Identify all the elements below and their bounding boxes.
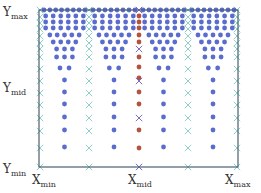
blue-sample-dot [112,55,117,60]
blue-sample-dot [73,20,78,25]
blue-sample-dot [206,66,211,71]
blue-sample-dot [51,40,56,45]
blue-sample-dot [161,47,166,52]
blue-sample-dot [92,26,97,31]
blue-sample-dot [211,128,216,133]
blue-sample-dot [161,115,166,120]
teal-cross-marker [37,78,43,84]
blue-sample-dot [115,40,120,45]
blue-sample-dot [112,33,117,38]
red-sample-dot [137,102,142,107]
blue-sample-dot [54,47,59,52]
blue-sample-dot [202,47,207,52]
blue-sample-dot [222,14,227,19]
red-sample-dot [137,55,142,60]
teal-cross-marker [86,66,92,72]
teal-cross-marker [185,26,191,32]
blue-sample-dot [165,26,170,31]
blue-sample-dot [153,55,158,60]
teal-cross-marker [86,46,92,52]
blue-sample-dot [103,47,108,52]
blue-sample-dot [191,20,196,25]
teal-cross-marker [234,115,240,121]
blue-sample-dot [108,20,113,25]
y-mid-label: Ymid [3,82,26,97]
blue-sample-dot [92,14,97,19]
teal-cross-marker [86,128,92,134]
blue-sample-dot [66,40,71,45]
blue-sample-dot [62,90,67,95]
blue-sample-dot [77,33,82,38]
x-max-label: Xmax [225,174,250,189]
blue-sample-dot [150,20,155,25]
blue-sample-dot [73,26,78,31]
blue-sample-dot [230,14,235,19]
teal-cross-marker [185,102,191,108]
blue-sample-dot [215,66,220,71]
blue-sample-dot [103,55,108,60]
blue-sample-dot [169,47,174,52]
teal-cross-marker [37,40,43,46]
blue-sample-dot [222,26,227,31]
blue-sample-dot [142,26,147,31]
blue-sample-dot [70,47,75,52]
blue-sample-dot [43,26,48,31]
sampling-grid-plot [0,0,261,193]
teal-cross-marker [37,115,43,121]
blue-sample-dot [165,14,170,19]
blue-sample-dot [161,102,166,107]
blue-sample-dot [157,20,162,25]
blue-sample-dot [172,20,177,25]
blue-sample-dot [165,40,170,45]
blue-sample-dot [81,20,86,25]
blue-sample-dot [54,55,59,60]
teal-cross-marker [234,102,240,108]
blue-sample-dot [226,33,231,38]
blue-sample-dot [73,14,78,19]
teal-cross-marker [185,115,191,121]
teal-cross-marker [86,115,92,121]
blue-sample-dot [172,40,177,45]
blue-sample-dot [81,14,86,19]
blue-sample-dot [112,115,117,120]
blue-sample-dot [166,66,171,71]
teal-cross-marker [185,46,191,52]
teal-cross-marker [185,128,191,134]
teal-cross-marker [86,40,92,46]
blue-sample-dot [62,78,67,83]
blue-sample-dot [161,90,166,95]
teal-cross-marker [234,33,240,39]
blue-sample-dot [104,33,109,38]
teal-cross-marker [37,90,43,96]
blue-sample-dot [180,14,185,19]
teal-cross-marker [185,78,191,84]
blue-sample-dot [62,55,67,60]
blue-sample-dot [100,14,105,19]
teal-cross-marker [86,14,92,20]
blue-sample-dot [66,26,71,31]
blue-sample-dot [203,33,208,38]
blue-sample-dot [51,26,56,31]
blue-sample-dot [131,14,136,19]
blue-sample-dot [108,40,113,45]
blue-sample-dot [168,33,173,38]
teal-cross-marker [37,145,43,151]
red-sample-dot [137,146,142,151]
blue-sample-dot [165,20,170,25]
blue-sample-dot [211,55,216,60]
teal-cross-marker [37,26,43,32]
blue-sample-dot [123,26,128,31]
blue-sample-dot [62,145,67,150]
x-mid-label: Xmid [128,174,152,189]
teal-cross-marker [185,145,191,151]
red-sample-dot [137,14,142,19]
blue-sample-dot [112,47,117,52]
teal-cross-marker [86,90,92,96]
blue-sample-dot [214,14,219,19]
blue-sample-dot [112,102,117,107]
blue-sample-dot [81,26,86,31]
teal-cross-marker [185,66,191,72]
blue-sample-dot [202,55,207,60]
blue-sample-dot [218,33,223,38]
blue-sample-dot [211,145,216,150]
